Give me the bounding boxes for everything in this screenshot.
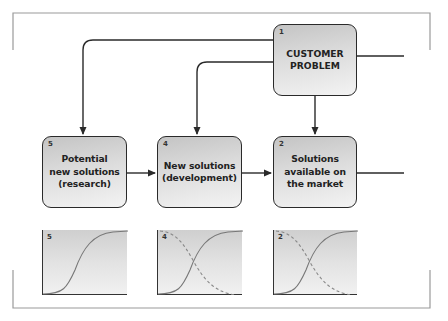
box-solutions-market: 2 Solutions available on the market bbox=[273, 136, 357, 208]
curve-panel-2: 2 bbox=[273, 230, 357, 295]
rising-curve bbox=[158, 231, 243, 294]
curve-panel-5: 5 bbox=[42, 230, 127, 295]
box-label: Solutions available on the market bbox=[284, 153, 346, 191]
panel-number: 5 bbox=[47, 233, 52, 241]
box-number: 4 bbox=[163, 140, 168, 148]
frame-top bbox=[13, 13, 430, 50]
box-label: Potential new solutions (research) bbox=[49, 153, 120, 191]
box-number: 5 bbox=[48, 140, 53, 148]
box-label: New solutions (development) bbox=[162, 160, 237, 185]
s-curve-chart bbox=[274, 230, 358, 295]
box-label: CUSTOMER PROBLEM bbox=[286, 48, 343, 73]
s-curve-chart bbox=[158, 230, 243, 295]
box-new-solutions: 4 New solutions (development) bbox=[157, 136, 242, 208]
box-number: 1 bbox=[279, 28, 284, 36]
panel-number: 4 bbox=[162, 233, 167, 241]
s-curve-chart bbox=[43, 230, 128, 295]
arrow-1-to-5 bbox=[83, 40, 273, 134]
box-number: 2 bbox=[279, 140, 284, 148]
box-customer-problem: 1 CUSTOMER PROBLEM bbox=[273, 24, 357, 96]
arrow-1-to-4 bbox=[197, 62, 273, 134]
diagram-canvas: 1 CUSTOMER PROBLEM 5 Potential new solut… bbox=[0, 0, 448, 321]
curve-panel-4: 4 bbox=[157, 230, 242, 295]
rising-curve bbox=[274, 231, 358, 294]
rising-curve bbox=[43, 231, 128, 294]
falling-dashed-curve bbox=[276, 231, 352, 295]
box-potential-solutions: 5 Potential new solutions (research) bbox=[42, 136, 127, 208]
falling-dashed-curve bbox=[160, 231, 236, 295]
panel-number: 2 bbox=[278, 233, 283, 241]
